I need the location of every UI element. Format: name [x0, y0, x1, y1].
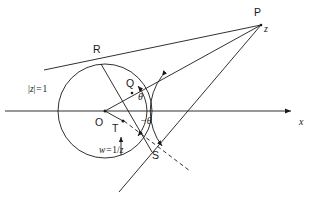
diagram-canvas — [0, 0, 317, 202]
dashed-line-T-to-lower-right — [124, 121, 190, 171]
dot-Q — [131, 92, 134, 95]
label-unit-circle: |z| = 1 — [28, 85, 47, 95]
label-point-z: z — [264, 24, 268, 34]
label-unit-circle-var: z — [30, 84, 34, 94]
dot-P — [260, 24, 263, 27]
line-origin-to-P — [105, 25, 261, 111]
label-inversion-z: z — [120, 145, 124, 155]
label-point-T: T — [112, 123, 118, 134]
segment-O-to-T — [105, 111, 123, 121]
label-angle-minus-theta: −θ — [140, 116, 152, 126]
dot-origin — [104, 110, 107, 113]
label-point-P: P — [254, 7, 261, 18]
label-inversion-expr: 1/z — [112, 145, 123, 155]
label-point-O: O — [95, 117, 103, 128]
label-angle-theta: θ — [138, 92, 143, 102]
figure-container: P z R Q O T S x |z| = 1 w = 1/z θ −θ — [0, 0, 317, 202]
label-inversion: w = 1/z — [99, 146, 123, 156]
label-axis-x: x — [299, 117, 303, 127]
label-point-Q: Q — [126, 78, 134, 89]
label-point-R: R — [93, 44, 101, 55]
label-point-S: S — [152, 150, 159, 161]
label-inversion-var: w — [99, 145, 105, 155]
label-unit-circle-value: 1 — [42, 84, 47, 94]
